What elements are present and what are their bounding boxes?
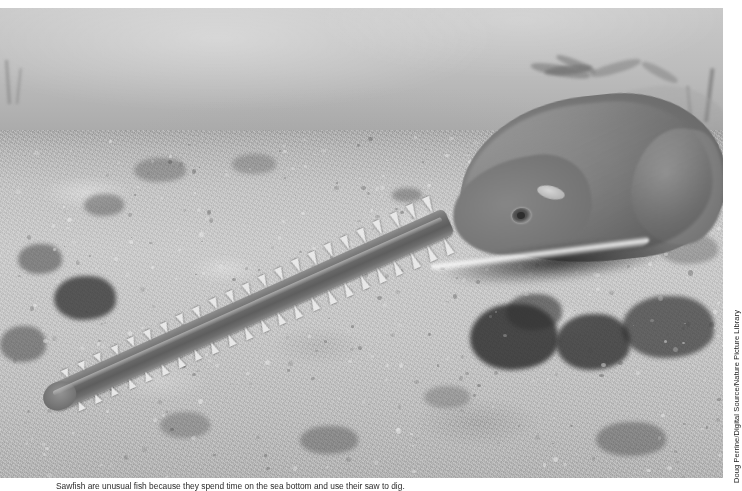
- rostral-tooth: [110, 345, 121, 357]
- rostral-tooth: [323, 243, 336, 260]
- rostral-tooth: [158, 363, 170, 376]
- photo-credit: Doug Perrine/Digital Source/Nature Pictu…: [733, 310, 741, 483]
- rostral-tooth: [257, 318, 270, 333]
- rostral-tooth: [291, 258, 304, 274]
- rostral-tooth: [75, 400, 86, 411]
- rostral-tooth: [405, 204, 419, 223]
- rostral-tooth: [274, 310, 287, 325]
- rostral-tooth: [61, 368, 72, 379]
- rostral-tooth: [208, 340, 220, 354]
- rostral-tooth: [374, 266, 388, 284]
- page-root: Doug Perrine/Digital Source/Nature Pictu…: [0, 0, 742, 491]
- rostral-tooth: [141, 370, 152, 382]
- rostral-tooth: [340, 281, 353, 298]
- rostrum-assembly: [46, 240, 496, 440]
- rostral-tooth: [440, 236, 455, 256]
- rostral-tooth: [125, 378, 136, 390]
- figure-caption: Sawfish are unusual fish because they sp…: [56, 481, 716, 491]
- rostral-tooth: [77, 360, 88, 371]
- rostral-tooth: [307, 251, 320, 268]
- rostral-tooth: [159, 321, 171, 334]
- rostral-tooth: [390, 258, 404, 276]
- rostral-tooth: [423, 243, 437, 262]
- rostral-tooth: [126, 337, 137, 349]
- rostral-tooth: [94, 352, 105, 363]
- rostral-tooth: [241, 282, 254, 297]
- rostral-tooth: [192, 305, 204, 319]
- rostral-tooth: [92, 392, 103, 403]
- rostral-tooth: [373, 219, 387, 237]
- rostral-tooth: [143, 329, 155, 342]
- rostral-tooth: [407, 251, 421, 270]
- rostral-tooth: [274, 266, 287, 282]
- sawfish-photograph: [0, 8, 723, 478]
- rostrum-saw: [40, 208, 455, 415]
- rostral-tooth: [224, 333, 236, 347]
- rostral-tooth: [175, 355, 187, 368]
- rostral-tooth: [208, 298, 220, 312]
- rostral-tooth: [324, 288, 337, 305]
- rostral-tooth: [307, 296, 320, 312]
- rostral-tooth: [176, 313, 188, 326]
- rostral-tooth: [241, 325, 254, 340]
- rostral-tooth: [389, 211, 403, 230]
- rostral-tooth: [422, 196, 437, 216]
- rostral-tooth: [340, 235, 353, 252]
- rostrum-ridge: [52, 217, 443, 396]
- rostral-tooth: [291, 303, 304, 319]
- rostral-tooth: [225, 290, 238, 305]
- rostral-tooth: [356, 227, 370, 245]
- rostral-tooth: [108, 385, 119, 396]
- rostral-tooth: [357, 273, 370, 290]
- rostral-tooth: [191, 348, 203, 361]
- rostral-tooth: [258, 274, 271, 289]
- sawfish: [0, 8, 723, 478]
